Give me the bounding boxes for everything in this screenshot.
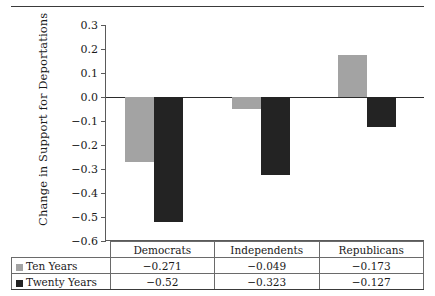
y-tick-label: −0.2: [71, 140, 98, 151]
table-value-cell: −0.127: [319, 274, 424, 290]
y-tick-label: 0.3: [81, 20, 99, 31]
bar-democrats-twenty-years: [154, 97, 183, 222]
legend-entry: Twenty Years: [12, 274, 111, 290]
top-rule: [11, 6, 424, 7]
table-category-header: Independents: [215, 242, 320, 258]
bar-republicans-ten-years: [338, 55, 367, 97]
y-tick-label: −0.4: [71, 188, 98, 199]
y-tick-label: −0.3: [71, 164, 98, 175]
y-tick-label: 0.1: [81, 68, 99, 79]
y-tick-label: 0.0: [81, 92, 99, 103]
legend-swatch-icon: [16, 264, 23, 271]
table-row: Twenty Years−0.52−0.323−0.127: [12, 274, 424, 290]
table-value-cell: −0.52: [110, 274, 215, 290]
bars-layer: [106, 25, 424, 240]
table-header-row: DemocratsIndependentsRepublicans: [12, 242, 424, 258]
legend-entry: Ten Years: [12, 258, 111, 274]
table-category-header: Democrats: [110, 242, 215, 258]
y-tick-label: 0.2: [81, 44, 99, 55]
table-value-cell: −0.049: [215, 258, 320, 274]
plot-area: 0.30.20.10.0−0.1−0.2−0.3−0.4−0.5−0.6: [105, 25, 424, 241]
bar-independents-ten-years: [232, 97, 261, 109]
table-row: Ten Years−0.271−0.049−0.173: [12, 258, 424, 274]
y-tick-label: −0.1: [71, 116, 98, 127]
legend-label: Twenty Years: [26, 276, 97, 288]
y-axis-title: Change in Support for Deportations: [36, 16, 50, 226]
table-value-cell: −0.173: [319, 258, 424, 274]
bar-republicans-twenty-years: [367, 97, 396, 127]
legend-label: Ten Years: [26, 260, 77, 272]
table-corner-cell: [12, 242, 111, 258]
legend-swatch-icon: [16, 280, 23, 287]
data-table: DemocratsIndependentsRepublicansTen Year…: [11, 241, 424, 290]
bar-independents-twenty-years: [261, 97, 290, 175]
bottom-rule: [11, 289, 424, 290]
bar-democrats-ten-years: [125, 97, 154, 162]
table-value-cell: −0.271: [110, 258, 215, 274]
table-value-cell: −0.323: [215, 274, 320, 290]
y-tick-label: −0.5: [71, 212, 98, 223]
table-category-header: Republicans: [319, 242, 424, 258]
